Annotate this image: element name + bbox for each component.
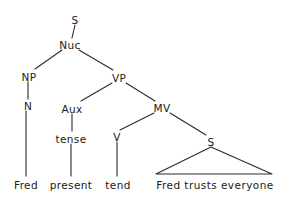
node-n: N (24, 100, 32, 112)
edge-vp-mv (126, 83, 155, 101)
node-nuc: Nuc (59, 39, 80, 51)
node-aux: Aux (61, 103, 82, 115)
leaf-present: present (50, 179, 93, 191)
node-tense: tense (56, 133, 87, 145)
edge-s-nuc (72, 25, 75, 38)
node-mv: MV (154, 102, 171, 114)
syntax-tree-diagram: S Nuc NP VP N Aux MV tense V S Fred pres… (0, 0, 293, 198)
node-s-root: S (71, 14, 78, 26)
node-s-embedded: S (207, 136, 214, 148)
embedded-clause-triangle (156, 147, 272, 174)
leaf-tend: tend (105, 179, 131, 191)
edge-nuc-vp (79, 50, 113, 70)
tree-edges-canvas (0, 0, 293, 198)
edge-mv-v (120, 113, 154, 130)
leaf-fred: Fred (14, 179, 38, 191)
embedded-clause-text: Fred trusts everyone (156, 179, 274, 191)
edge-nuc-np (35, 50, 62, 69)
edge-vp-aux (81, 83, 112, 101)
node-v: V (113, 131, 121, 143)
edge-mv-s (170, 113, 206, 135)
node-np: NP (22, 71, 37, 83)
node-vp: VP (112, 72, 126, 84)
